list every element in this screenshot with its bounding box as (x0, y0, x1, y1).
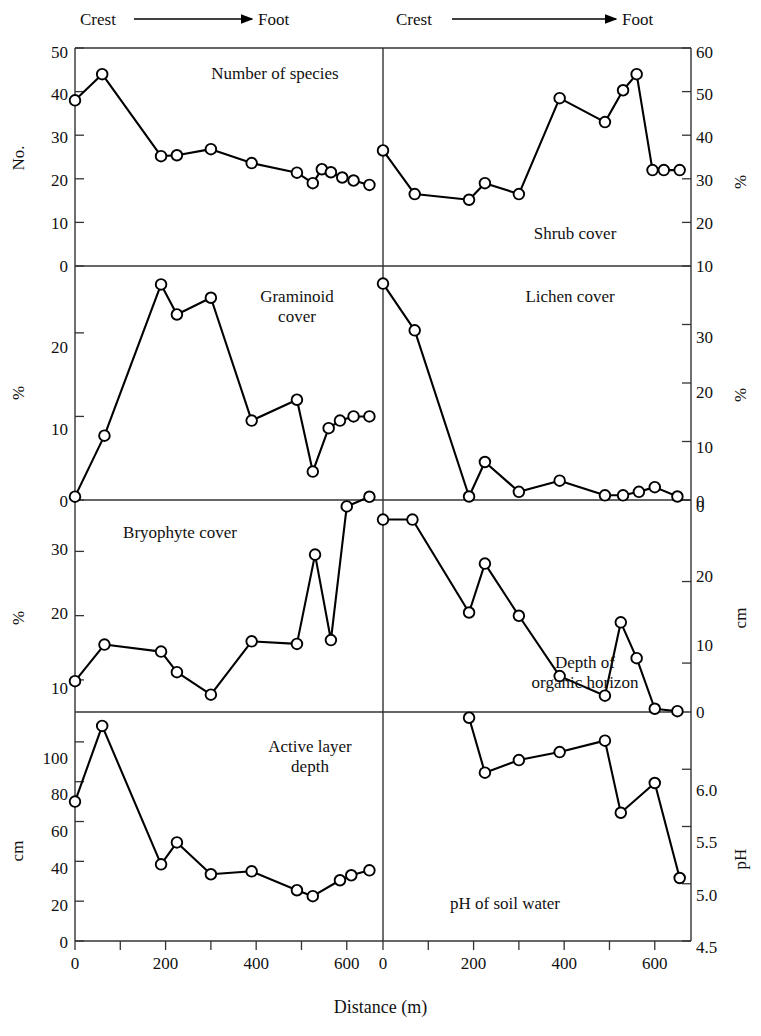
data-point (554, 747, 565, 758)
data-point (631, 69, 642, 80)
data-point (156, 151, 167, 162)
data-point (480, 178, 491, 189)
species-tick-20: 20 (26, 171, 68, 191)
bryophyte-tick-10: 10 (26, 679, 68, 699)
panel-title-graminoid: Graminoid cover (222, 287, 372, 326)
species-tick-0: 0 (26, 257, 68, 277)
data-point (378, 514, 389, 525)
data-point (326, 167, 337, 178)
ph-axis-label: pH (731, 836, 751, 882)
data-point (364, 411, 375, 422)
data-point (206, 869, 217, 880)
x-tick-label-0-0: 0 (50, 954, 100, 974)
data-point (156, 646, 167, 657)
data-point (649, 482, 660, 493)
data-point (70, 95, 81, 106)
species-tick-30: 30 (26, 128, 68, 148)
data-point (464, 491, 475, 502)
data-point (409, 189, 420, 200)
data-point (292, 394, 303, 405)
series-line-shrub (383, 74, 680, 200)
shrub-tick-10: 10 (696, 257, 746, 277)
data-point (99, 639, 110, 650)
panel-title-active-line2: depth (230, 757, 390, 777)
data-point (70, 491, 81, 502)
data-point (335, 415, 346, 426)
panel-title-organic: Depth of organic horizon (490, 653, 680, 692)
shrub-tick-20: 20 (696, 214, 746, 234)
x-tick-label-1-400: 400 (539, 954, 589, 974)
data-point (672, 706, 683, 717)
data-point (307, 891, 318, 902)
panel-title-organic-line1: Depth of (490, 653, 680, 673)
series-shrub (378, 69, 685, 205)
shrub-axis-label: % (731, 164, 751, 200)
data-point (514, 755, 525, 766)
data-point (172, 150, 183, 161)
panel-title-graminoid-line1: Graminoid (222, 287, 372, 307)
active-tick-100: 100 (18, 749, 68, 769)
x-tick-label-1-0: 0 (358, 954, 408, 974)
data-point (672, 491, 683, 502)
active-axis-label: cm (8, 826, 28, 876)
panel-title-graminoid-line2: cover (222, 307, 372, 327)
data-point (335, 875, 346, 886)
species-tick-10: 10 (26, 214, 68, 234)
data-point (172, 309, 183, 320)
series-lichen (378, 278, 683, 502)
panel-title-organic-line2: organic horizon (490, 673, 680, 693)
data-point (514, 189, 525, 200)
x-tick-label-1-200: 200 (449, 954, 499, 974)
data-point (348, 411, 359, 422)
organic-tick-0-bottom: 0 (696, 703, 746, 723)
data-point (649, 703, 660, 714)
data-point (480, 767, 491, 778)
lichen-tick-30: 30 (696, 328, 746, 348)
data-point (246, 415, 257, 426)
data-point (554, 93, 565, 104)
multi-panel-figure: Crest Foot Crest Foot 50 40 30 20 10 0 2… (0, 0, 761, 1036)
graminoid-tick-20: 20 (26, 338, 68, 358)
panel-title-lichen: Lichen cover (490, 287, 650, 307)
data-point (172, 667, 183, 678)
x-tick-label-0-200: 200 (141, 954, 191, 974)
data-point (156, 279, 167, 290)
data-point (346, 870, 357, 881)
data-point (464, 712, 475, 723)
data-point (326, 635, 337, 646)
data-point (634, 487, 645, 498)
shrub-tick-60: 60 (696, 43, 746, 63)
data-point (70, 796, 81, 807)
active-tick-20: 20 (18, 896, 68, 916)
panel-title-ph: pH of soil water (410, 894, 600, 914)
data-point (206, 689, 217, 700)
data-point (618, 85, 629, 96)
lichen-tick-10: 10 (696, 438, 746, 458)
data-point (246, 866, 257, 877)
x-axis-title: Distance (m) (0, 997, 761, 1018)
bryophyte-tick-30: 30 (26, 540, 68, 560)
data-point (172, 837, 183, 848)
data-point (514, 610, 525, 621)
data-point (364, 180, 375, 191)
data-point (323, 423, 334, 434)
data-point (292, 167, 303, 178)
bryophyte-axis-label: % (9, 600, 29, 636)
data-point (600, 117, 611, 128)
data-point (307, 178, 318, 189)
data-point (206, 144, 217, 155)
graminoid-axis-label: % (9, 375, 29, 411)
data-point (70, 676, 81, 687)
graminoid-tick-10: 10 (26, 420, 68, 440)
data-point (99, 430, 110, 441)
data-point (246, 636, 257, 647)
data-point (206, 292, 217, 303)
data-point (409, 325, 420, 336)
lichen-axis-label: % (731, 377, 751, 413)
data-point (364, 865, 375, 876)
data-point (600, 490, 611, 501)
data-point (378, 278, 389, 289)
data-point (615, 617, 626, 628)
data-point (480, 457, 491, 468)
species-tick-50: 50 (26, 43, 68, 63)
